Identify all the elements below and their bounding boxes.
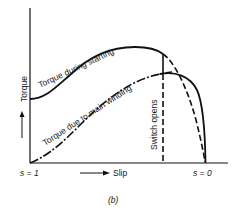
torque-slip-diagram: Torque during starting Torque due to mai… bbox=[0, 0, 236, 217]
y-axis-arrow-icon bbox=[20, 111, 25, 117]
s-equals-1-label: s = 1 bbox=[20, 168, 39, 178]
main-winding-curve-label: Torque due to main winding bbox=[41, 83, 134, 148]
x-axis-label: Slip bbox=[113, 168, 127, 178]
starting-torque-dashed-continuation bbox=[163, 54, 205, 162]
main-winding-operating-curve bbox=[160, 73, 206, 163]
starting-curve-label: Torque during starting bbox=[37, 46, 116, 90]
y-axis-label: Torque bbox=[19, 76, 29, 102]
caption: (b) bbox=[108, 195, 119, 205]
s-equals-0-label: s = 0 bbox=[193, 168, 212, 178]
switch-opens-label: Switch opens bbox=[149, 99, 159, 150]
x-axis-arrow-icon bbox=[103, 171, 110, 176]
